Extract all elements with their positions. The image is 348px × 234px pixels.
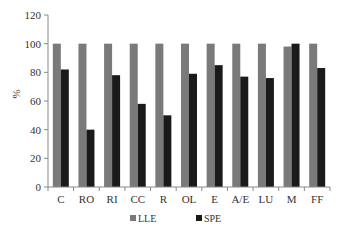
y-tick-label: 0 (36, 181, 42, 193)
bar-lle (284, 47, 292, 187)
bar-spe (163, 115, 171, 187)
x-tick-label: A/E (231, 193, 249, 205)
x-tick-label: M (287, 193, 297, 205)
y-tick-label: 80 (30, 66, 42, 78)
bar-spe (61, 69, 69, 187)
x-tick-label: FF (311, 193, 323, 205)
bar-spe (215, 65, 223, 187)
bar-lle (53, 44, 61, 187)
y-tick-label: 20 (30, 152, 42, 164)
bar-lle (181, 44, 189, 187)
x-tick-label: RO (79, 193, 94, 205)
bar-spe (112, 75, 120, 187)
y-axis-label: % (10, 89, 22, 98)
bar-lle (130, 44, 138, 187)
y-tick-label: 60 (30, 95, 42, 107)
bar-spe (292, 44, 300, 187)
bar-chart: 020406080100120% CRORICCROLEA/ELUMFF LLE… (0, 0, 348, 234)
bar-lle (155, 44, 163, 187)
bars (53, 44, 325, 187)
x-tick-label: C (57, 193, 64, 205)
bar-spe (240, 77, 248, 187)
legend-label: SPE (204, 213, 221, 224)
x-tick-label: CC (130, 193, 145, 205)
legend: LLESPE (130, 213, 221, 224)
legend-swatch-icon (196, 215, 202, 221)
bar-lle (104, 44, 112, 187)
x-tick-label: R (160, 193, 168, 205)
bar-lle (78, 44, 86, 187)
bar-lle (207, 44, 215, 187)
x-tick-label: RI (107, 193, 118, 205)
legend-swatch-icon (130, 215, 136, 221)
y-tick-label: 100 (25, 38, 42, 50)
y-tick-label: 120 (25, 9, 42, 21)
y-axis: 020406080100120% (10, 9, 48, 193)
bar-spe (86, 130, 94, 187)
bar-lle (309, 44, 317, 187)
y-tick-label: 40 (30, 124, 42, 136)
x-axis: CRORICCROLEA/ELUMFF (48, 187, 330, 205)
bar-spe (317, 68, 325, 187)
x-tick-label: OL (182, 193, 197, 205)
x-tick-label: E (211, 193, 218, 205)
bar-spe (266, 78, 274, 187)
bar-spe (138, 104, 146, 187)
bar-spe (189, 74, 197, 187)
legend-label: LLE (138, 213, 156, 224)
x-tick-label: LU (259, 193, 274, 205)
bar-lle (258, 44, 266, 187)
bar-lle (232, 44, 240, 187)
